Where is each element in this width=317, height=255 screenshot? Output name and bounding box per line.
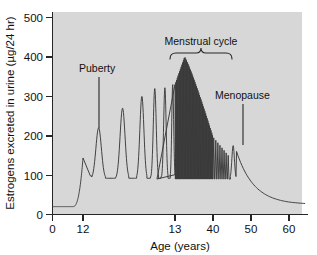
- estrogen-excretion-figure: 500 400 300 200 100 0 0 12 13 40 50 60 A…: [0, 0, 317, 255]
- menopause-label: Menopause: [215, 89, 270, 101]
- x-axis-title: Age (years): [150, 240, 210, 252]
- x-axis-ticks: [53, 215, 290, 222]
- y-tick-label: 100: [24, 170, 43, 182]
- y-axis-title: Estrogens excreted in urine (µg/24 hr): [4, 16, 16, 209]
- x-tick-label: 40: [207, 223, 220, 235]
- x-tick-label: 0: [49, 223, 55, 235]
- y-tick-label: 500: [24, 12, 43, 24]
- x-tick-label: 13: [169, 223, 182, 235]
- y-tick-label: 300: [24, 91, 43, 103]
- chart-canvas: 500 400 300 200 100 0 0 12 13 40 50 60 A…: [0, 0, 317, 255]
- x-axis-tick-labels: 0 12 13 40 50 60: [49, 223, 295, 235]
- menstrual-cycle-label: Menstrual cycle: [165, 35, 238, 47]
- x-tick-label: 12: [77, 223, 90, 235]
- y-tick-label: 200: [24, 130, 43, 142]
- y-axis-ticks: [46, 18, 53, 215]
- y-tick-label: 0: [37, 209, 43, 221]
- y-tick-label: 400: [24, 51, 43, 63]
- x-tick-label: 60: [283, 223, 296, 235]
- x-tick-label: 50: [245, 223, 258, 235]
- y-axis-tick-labels: 500 400 300 200 100 0: [24, 12, 43, 221]
- puberty-label: Puberty: [79, 62, 116, 74]
